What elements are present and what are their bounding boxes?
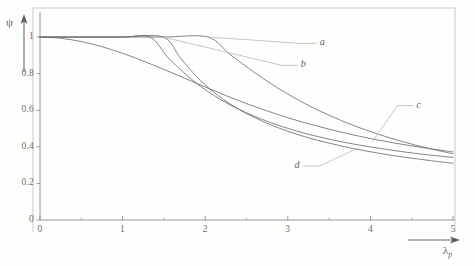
x-tick-label: 5 [443, 224, 463, 234]
annotation-leaders [163, 37, 413, 166]
data-curves [40, 35, 453, 163]
curve-d [40, 37, 453, 152]
y-tick-label: 1 [29, 31, 34, 41]
y-tick-label: 0.8 [22, 68, 34, 78]
y-tick-label: 0.4 [22, 141, 34, 151]
chart-figure: 00.20.40.60.81 012345 abcd ψ λp [0, 0, 475, 266]
curve-label-d: d [294, 159, 299, 170]
curve-label-b: b [301, 58, 306, 69]
chart-canvas [0, 0, 475, 266]
curve-c [40, 35, 453, 157]
plot-frame [33, 8, 455, 232]
leader-line-c [372, 106, 413, 143]
y-tick-label: 0.2 [22, 177, 34, 187]
x-tick-label: 2 [195, 224, 215, 234]
curve-a [40, 36, 453, 154]
curve-label-a: a [320, 36, 325, 47]
x-axis-title: λp [443, 244, 452, 259]
y-tick-label: 0.6 [22, 104, 34, 114]
curve-label-c: c [416, 99, 420, 110]
y-axis-title: ψ [6, 16, 13, 28]
x-tick-label: 1 [113, 224, 133, 234]
x-tick-label: 0 [30, 224, 50, 234]
y-tick-label: 0 [29, 214, 34, 224]
curve-b [40, 35, 453, 163]
leader-line-a [208, 37, 317, 43]
axis-lines [40, 12, 455, 220]
axis-arrows [21, 14, 460, 243]
x-tick-label: 4 [360, 224, 380, 234]
x-axis-title-subscript: p [448, 250, 452, 259]
y-axis-ticks [37, 37, 41, 220]
x-tick-label: 3 [278, 224, 298, 234]
leader-line-d [304, 148, 359, 166]
